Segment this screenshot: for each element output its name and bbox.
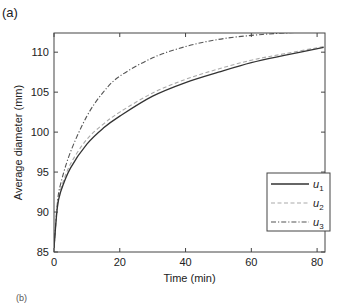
y-tick-label: 95	[37, 166, 49, 178]
x-tick-label: 40	[179, 256, 191, 268]
axes: 020406080859095100105110Time (min)Averag…	[12, 33, 325, 284]
x-tick-label: 60	[245, 256, 257, 268]
legend: u1u2u3	[267, 173, 330, 231]
y-tick-label: 90	[37, 206, 49, 218]
y-axis-title: Average diameter (mm)	[12, 85, 24, 200]
x-axis-title: Time (min)	[163, 272, 215, 284]
x-tick-label: 80	[311, 256, 323, 268]
y-tick-label: 110	[31, 46, 49, 58]
x-tick-label: 0	[51, 256, 57, 268]
x-tick-label: 20	[114, 256, 126, 268]
next-panel-label: (b)	[16, 293, 27, 303]
y-tick-label: 105	[31, 86, 49, 98]
y-tick-label: 100	[31, 126, 49, 138]
y-tick-label: 85	[37, 246, 49, 258]
